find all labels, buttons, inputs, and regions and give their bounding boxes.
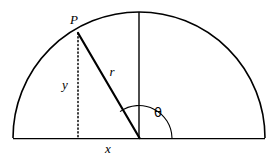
label-point-p: P (69, 12, 78, 27)
angle-arc (120, 106, 172, 138)
label-radius: r (109, 64, 115, 79)
label-vertical-leg: y (60, 77, 68, 92)
label-angle-theta: θ (154, 105, 162, 120)
geometry-figure: P r y x θ (0, 0, 279, 156)
label-horizontal-leg: x (104, 141, 111, 156)
semicircle-diagram-svg: P r y x θ (0, 0, 279, 156)
radius-line-to-p (78, 33, 140, 138)
